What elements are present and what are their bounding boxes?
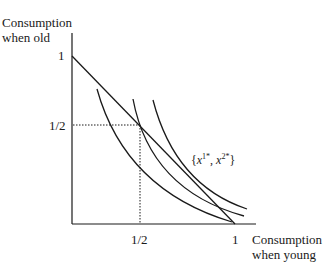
x-axis-label-line2: when young bbox=[252, 247, 322, 262]
y-axis-label: Consumption when old bbox=[2, 15, 72, 45]
x-tick-half: 1/2 bbox=[131, 232, 148, 247]
annot-sup1: 1* bbox=[202, 152, 210, 161]
optimum-annotation: {x1*, x2*} bbox=[191, 152, 235, 168]
y-axis-label-line1: Consumption bbox=[2, 15, 72, 30]
y-tick-1: 1 bbox=[58, 48, 65, 63]
y-axis-label-line2: when old bbox=[2, 30, 72, 45]
x-tick-1: 1 bbox=[232, 232, 239, 247]
y-tick-half: 1/2 bbox=[49, 118, 66, 133]
budget-line bbox=[72, 56, 235, 224]
annot-close: } bbox=[229, 153, 235, 167]
x-axis-label: Consumption when young bbox=[252, 232, 322, 262]
x-axis-label-line1: Consumption bbox=[252, 232, 322, 247]
